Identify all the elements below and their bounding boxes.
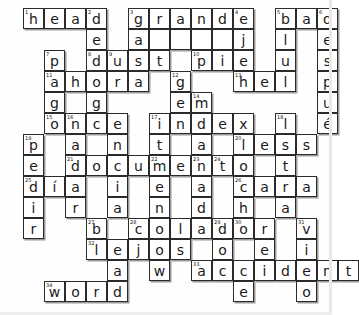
crossword-cell[interactable]: 34w (44, 281, 65, 302)
crossword-cell[interactable]: 11a (44, 71, 65, 92)
crossword-cell[interactable]: d (191, 113, 212, 134)
crossword-cell[interactable]: 27b (86, 218, 107, 239)
crossword-cell[interactable]: x (233, 113, 254, 134)
crossword-cell[interactable]: 18l (275, 113, 296, 134)
crossword-cell[interactable]: w (149, 260, 170, 281)
crossword-cell[interactable]: e (233, 50, 254, 71)
crossword-cell[interactable]: e (44, 8, 65, 29)
crossword-cell[interactable]: i (212, 50, 233, 71)
crossword-cell[interactable]: r (107, 71, 128, 92)
crossword-cell[interactable]: j (128, 239, 149, 260)
crossword-cell[interactable]: d (212, 8, 233, 29)
crossword-cell[interactable]: d (107, 281, 128, 302)
crossword-cell[interactable]: 3g (128, 8, 149, 29)
crossword-cell[interactable]: 7p (44, 50, 65, 71)
crossword-cell[interactable]: 33a (191, 260, 212, 281)
crossword-cell[interactable]: u (128, 155, 149, 176)
crossword-cell[interactable]: 22m (149, 155, 170, 176)
crossword-cell[interactable]: a (65, 8, 86, 29)
crossword-cell[interactable]: e (170, 155, 191, 176)
crossword-cell[interactable]: u (317, 92, 338, 113)
crossword-cell[interactable]: i (296, 239, 317, 260)
crossword-cell[interactable]: e (23, 155, 44, 176)
crossword-cell[interactable]: h (65, 71, 86, 92)
crossword-cell[interactable]: a (254, 176, 275, 197)
crossword-cell[interactable]: 12g (170, 71, 191, 92)
crossword-cell[interactable]: a (191, 176, 212, 197)
crossword-cell[interactable]: o (149, 218, 170, 239)
crossword-cell[interactable]: i (23, 197, 44, 218)
crossword-cell[interactable]: o (86, 155, 107, 176)
crossword-cell[interactable] (212, 29, 233, 50)
crossword-cell[interactable]: c (86, 113, 107, 134)
crossword-cell[interactable]: e (254, 239, 275, 260)
crossword-cell[interactable]: 28c (128, 218, 149, 239)
crossword-cell[interactable]: e (107, 239, 128, 260)
crossword-cell[interactable]: a (191, 218, 212, 239)
crossword-cell[interactable]: 8d (86, 50, 107, 71)
crossword-cell[interactable]: 5b (275, 8, 296, 29)
crossword-cell[interactable]: 2d (86, 8, 107, 29)
crossword-cell[interactable]: o (65, 281, 86, 302)
crossword-cell[interactable]: a (170, 8, 191, 29)
crossword-cell[interactable]: 9u (107, 50, 128, 71)
crossword-cell[interactable]: 21d (65, 155, 86, 176)
crossword-cell[interactable]: 16n (65, 113, 86, 134)
crossword-cell[interactable]: r (254, 218, 275, 239)
crossword-cell[interactable]: 25d (23, 176, 44, 197)
crossword-cell[interactable]: a (107, 197, 128, 218)
crossword-cell[interactable]: 29d (212, 218, 233, 239)
crossword-cell[interactable]: e (149, 176, 170, 197)
crossword-cell[interactable]: a (128, 29, 149, 50)
crossword-cell[interactable]: a (275, 197, 296, 218)
crossword-cell[interactable]: a (128, 71, 149, 92)
crossword-cell[interactable]: s (296, 134, 317, 155)
crossword-cell[interactable]: e (233, 281, 254, 302)
crossword-cell[interactable]: n (170, 113, 191, 134)
crossword-cell[interactable]: j (233, 29, 254, 50)
crossword-cell[interactable]: a (191, 134, 212, 155)
crossword-cell[interactable]: 15o (44, 113, 65, 134)
crossword-cell[interactable]: u (275, 50, 296, 71)
crossword-cell[interactable]: l (170, 218, 191, 239)
crossword-cell[interactable]: t (275, 155, 296, 176)
crossword-cell[interactable]: e (254, 71, 275, 92)
crossword-cell[interactable]: s (170, 239, 191, 260)
crossword-cell[interactable]: e (254, 134, 275, 155)
crossword-cell[interactable]: l (275, 71, 296, 92)
crossword-cell[interactable]: o (149, 239, 170, 260)
crossword-cell[interactable]: a (296, 8, 317, 29)
crossword-cell[interactable] (170, 29, 191, 50)
crossword-cell[interactable]: 13h (233, 71, 254, 92)
crossword-cell[interactable]: 26c (233, 176, 254, 197)
crossword-cell[interactable]: 6d (317, 8, 338, 29)
crossword-cell[interactable]: a (296, 176, 317, 197)
crossword-cell[interactable]: n (149, 197, 170, 218)
crossword-cell[interactable]: i (107, 176, 128, 197)
crossword-cell[interactable]: 23n (191, 155, 212, 176)
crossword-cell[interactable]: 10p (191, 50, 212, 71)
crossword-cell[interactable]: 24t (212, 155, 233, 176)
crossword-cell[interactable]: 14m (191, 92, 212, 113)
crossword-cell[interactable]: h (233, 197, 254, 218)
crossword-cell[interactable]: é (317, 113, 338, 134)
crossword-cell[interactable]: t (149, 134, 170, 155)
crossword-cell[interactable]: l (275, 29, 296, 50)
crossword-cell[interactable]: r (275, 176, 296, 197)
crossword-cell[interactable]: 32l (86, 239, 107, 260)
crossword-cell[interactable]: r (23, 218, 44, 239)
crossword-cell[interactable]: o (212, 239, 233, 260)
crossword-cell[interactable]: i (254, 260, 275, 281)
crossword-cell[interactable]: c (212, 260, 233, 281)
crossword-cell[interactable]: n (191, 8, 212, 29)
crossword-cell[interactable]: r (149, 8, 170, 29)
crossword-cell[interactable]: a (65, 134, 86, 155)
crossword-cell[interactable]: 31v (296, 218, 317, 239)
crossword-cell[interactable]: c (107, 155, 128, 176)
crossword-cell[interactable]: t (338, 260, 359, 281)
crossword-cell[interactable]: o (233, 155, 254, 176)
crossword-cell[interactable]: n (317, 260, 338, 281)
crossword-cell[interactable]: o (296, 281, 317, 302)
crossword-cell[interactable]: r (65, 197, 86, 218)
crossword-cell[interactable]: d (275, 260, 296, 281)
